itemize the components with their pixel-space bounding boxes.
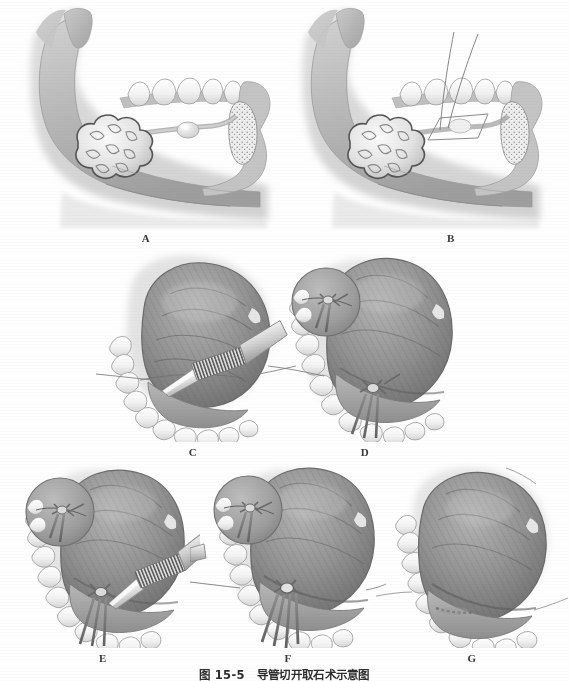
- panel-c: [96, 250, 296, 442]
- tongue-c: [142, 263, 270, 408]
- magnified-inset-f: [214, 476, 282, 544]
- figure-page: A: [0, 0, 569, 681]
- sublingual-gland-a: [229, 102, 257, 164]
- figure-number: 图 15-5: [199, 668, 245, 681]
- panel-g: [376, 462, 568, 648]
- figure-title: 导管切开取石术示意图: [257, 668, 370, 681]
- panel-label-g: G: [462, 652, 482, 664]
- panel-a: [16, 6, 278, 230]
- panel-label-e: E: [93, 652, 113, 664]
- panel-label-f: F: [278, 652, 298, 664]
- panel-f: [190, 462, 386, 648]
- sublingual-gland-b: [501, 102, 529, 164]
- figure-caption: 图 15-5导管切开取石术示意图: [0, 666, 569, 681]
- magnified-inset-e: [26, 478, 94, 546]
- panel-label-a: A: [136, 232, 156, 244]
- magnified-inset-d: [292, 268, 360, 336]
- panel-b: [288, 6, 550, 230]
- panel-label-b: B: [441, 232, 461, 244]
- sialolith-a: [177, 122, 199, 138]
- panel-label-d: D: [355, 446, 375, 458]
- panel-d: [268, 250, 468, 442]
- panel-e: [4, 462, 200, 648]
- sialolith-b: [449, 119, 471, 133]
- panel-label-c: C: [183, 446, 203, 458]
